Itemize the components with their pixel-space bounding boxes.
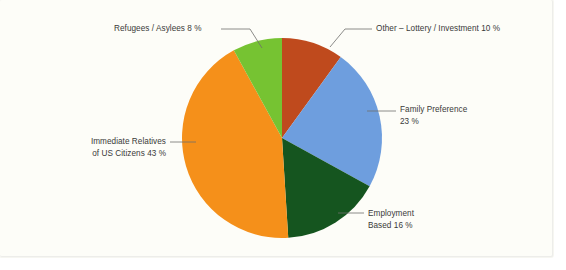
pie-chart — [0, 0, 566, 270]
slice-label-employment-based-line1: Employment — [368, 208, 414, 220]
pie-slices — [182, 38, 382, 238]
slice-label-immediate-relatives-line1: Immediate Relatives — [56, 136, 166, 148]
slice-label-employment-based-line2: Based 16 % — [368, 220, 414, 232]
screenshot-canvas: Refugees / Asylees 8 % Other – Lottery /… — [0, 0, 566, 270]
slice-label-immediate-relatives: Immediate Relatives of US Citizens 43 % — [56, 136, 166, 159]
slice-label-immediate-relatives-line2: of US Citizens 43 % — [56, 148, 166, 160]
slice-label-family-preference: Family Preference 23 % — [400, 104, 467, 127]
slice-label-employment-based: Employment Based 16 % — [368, 208, 414, 231]
slice-label-family-preference-line1: Family Preference — [400, 104, 467, 116]
slice-label-other-lottery-investment: Other – Lottery / Investment 10 % — [376, 23, 500, 35]
slice-label-refugees-asylees: Refugees / Asylees 8 % — [114, 23, 202, 35]
slice-label-family-preference-line2: 23 % — [400, 116, 467, 128]
leader-line-other — [330, 29, 372, 47]
slice-label-refugees-asylees-line1: Refugees / Asylees 8 % — [114, 23, 202, 35]
slice-label-other-lottery-investment-line1: Other – Lottery / Investment 10 % — [376, 23, 500, 35]
